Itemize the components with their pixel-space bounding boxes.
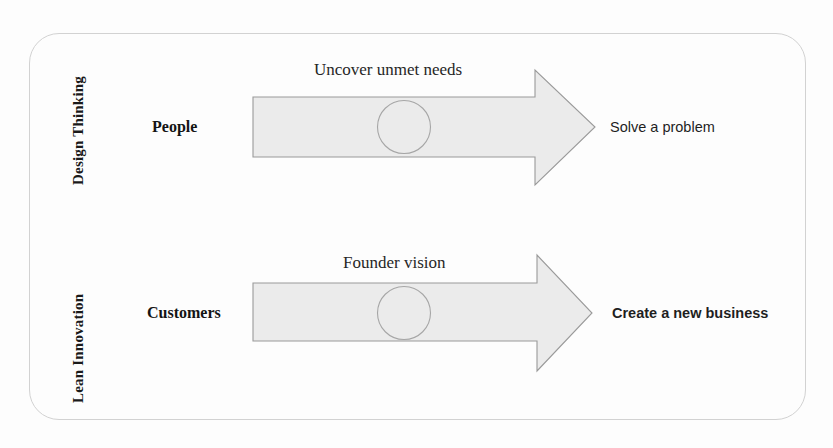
arrow-lean-innovation <box>250 252 600 377</box>
diagram-canvas: Design Thinking People Uncover unmet nee… <box>0 0 833 448</box>
section-label-lean-innovation: Lean Innovation <box>70 294 87 403</box>
arrow-design-thinking <box>250 65 600 200</box>
source-label-customers: Customers <box>147 304 221 322</box>
arrow-shape <box>253 255 592 371</box>
outcome-label-solve-a-problem: Solve a problem <box>610 119 715 135</box>
section-label-design-thinking: Design Thinking <box>70 76 87 185</box>
source-label-people: People <box>152 118 197 136</box>
outcome-label-create-a-new-business: Create a new business <box>612 305 768 321</box>
arrow-shape <box>253 70 595 185</box>
